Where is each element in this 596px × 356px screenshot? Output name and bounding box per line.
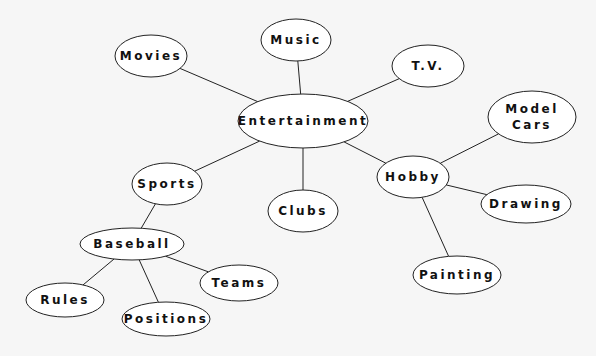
edge-hobby-painting (422, 197, 449, 256)
edge-baseball-rules (83, 259, 114, 285)
node-rules[interactable]: Rules (26, 283, 104, 317)
node-sports[interactable]: Sports (132, 163, 202, 205)
nodes: EntertainmentMusicMoviesT.V.SportsClubsH… (26, 19, 576, 336)
node-entertainment[interactable]: Entertainment (238, 94, 368, 148)
node-label: Hobby (385, 170, 441, 184)
node-label: Rules (40, 293, 90, 307)
edge-entertainment-sports (195, 141, 260, 171)
node-clubs[interactable]: Clubs (268, 190, 338, 232)
node-movies[interactable]: Movies (115, 35, 187, 77)
node-hobby[interactable]: Hobby (377, 156, 449, 198)
node-label: Model (505, 102, 559, 116)
node-label: Drawing (489, 197, 563, 211)
node-baseball[interactable]: Baseball (80, 228, 184, 260)
node-teams[interactable]: Teams (200, 265, 278, 301)
node-label: Clubs (278, 204, 328, 218)
node-label: Painting (419, 268, 495, 282)
node-painting[interactable]: Painting (413, 256, 501, 294)
node-label: Music (270, 33, 321, 47)
edge-entertainment-movies (180, 68, 258, 101)
node-label: Entertainment (238, 114, 368, 128)
node-positions[interactable]: Positions (122, 302, 210, 336)
edge-hobby-model-cars (440, 134, 498, 163)
node-label: Teams (212, 276, 267, 290)
edge-entertainment-music (298, 61, 301, 94)
edge-entertainment-hobby (344, 142, 386, 163)
mind-map: EntertainmentMusicMoviesT.V.SportsClubsH… (0, 0, 596, 356)
node-label: Movies (120, 49, 182, 63)
node-label: Sports (137, 177, 196, 191)
edge-sports-baseball (141, 204, 155, 228)
node-music[interactable]: Music (261, 19, 331, 61)
edge-entertainment-tv (348, 79, 400, 102)
edge-hobby-drawing (446, 185, 487, 195)
node-tv[interactable]: T.V. (392, 45, 464, 87)
node-label: Cars (512, 118, 552, 132)
node-drawing[interactable]: Drawing (481, 185, 571, 223)
edge-baseball-teams (166, 256, 209, 272)
node-label: T.V. (411, 59, 444, 73)
node-label: Positions (124, 312, 209, 326)
node-model-cars[interactable]: ModelCars (488, 91, 576, 143)
node-label: Baseball (93, 237, 170, 251)
edge-baseball-positions (139, 260, 158, 302)
